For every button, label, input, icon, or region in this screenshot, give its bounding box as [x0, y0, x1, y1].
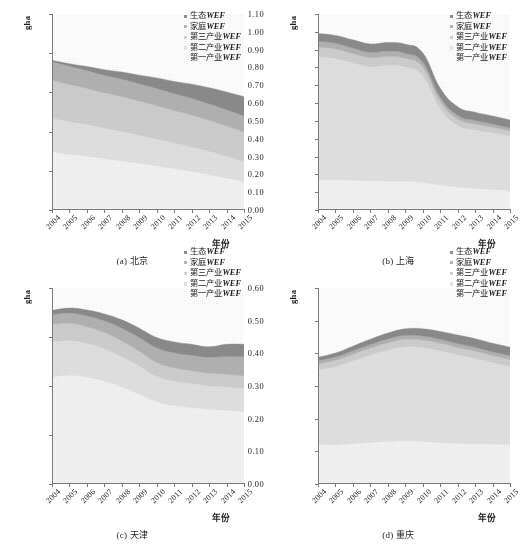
y-tick-label: 0.60 — [248, 284, 264, 293]
x-tick-label: 2012 — [450, 213, 468, 231]
legend-swatch-tertiary — [184, 272, 187, 275]
legend-label: 第二产业WEF — [190, 43, 241, 54]
y-tick-label: 0.00 — [248, 206, 264, 215]
x-tick-label: 2013 — [201, 213, 219, 231]
y-tick-mark — [49, 171, 52, 172]
x-tick-label: 2008 — [380, 213, 398, 231]
x-tick-label: 2011 — [432, 213, 450, 231]
y-tick-mark — [315, 139, 318, 140]
x-tick-mark — [423, 210, 424, 213]
x-tick-mark — [318, 210, 319, 213]
legend-label: 第一产业WEF — [456, 289, 507, 300]
legend-label: 第一产业WEF — [456, 53, 507, 64]
x-tick-label: 2009 — [131, 213, 149, 231]
legend-label: 第二产业WEF — [456, 43, 507, 54]
x-tick-mark — [318, 484, 319, 487]
legend-swatch-household — [450, 261, 453, 264]
x-tick-mark — [209, 210, 210, 213]
y-axis-line-d — [318, 288, 319, 484]
y-axis-line-a — [52, 14, 53, 210]
plot-area-c — [52, 288, 244, 484]
y-tick-label: 0.80 — [248, 63, 264, 72]
y-tick-label: 0.00 — [248, 480, 264, 489]
x-tick-label: 2011 — [166, 213, 184, 231]
x-tick-mark — [209, 484, 210, 487]
y-tick-mark — [315, 32, 318, 33]
legend-item: 家庭WEF — [450, 22, 507, 33]
x-tick-mark — [423, 484, 424, 487]
chart-panel-b: gha 0.000.100.200.300.400.500.600.700.80… — [266, 0, 531, 273]
x-tick-mark — [405, 484, 406, 487]
x-tick-label: 2011 — [432, 487, 450, 505]
legend-label: 家庭WEF — [190, 258, 225, 269]
x-axis-line-d — [318, 483, 511, 484]
x-tick-mark — [87, 210, 88, 213]
x-tick-label: 2013 — [467, 213, 485, 231]
x-tick-mark — [139, 484, 140, 487]
y-tick-mark — [315, 419, 318, 420]
y-tick-mark — [315, 121, 318, 122]
x-axis-title-c: 年份 — [212, 511, 230, 523]
x-tick-label: 2007 — [362, 487, 380, 505]
legend-b: 生态WEF家庭WEF第三产业WEF第二产业WEF第一产业WEF — [450, 11, 507, 64]
y-tick-mark — [315, 103, 318, 104]
y-tick-label: 1.10 — [248, 10, 264, 19]
legend-swatch-primary — [184, 293, 187, 296]
legend-item: 第一产业WEF — [184, 289, 241, 300]
x-tick-label: 2012 — [184, 487, 202, 505]
legend-item: 第三产业WEF — [450, 268, 507, 279]
x-tick-mark — [370, 210, 371, 213]
y-tick-mark — [315, 451, 318, 452]
y-tick-label: 0.20 — [248, 414, 264, 423]
x-tick-label: 2008 — [114, 213, 132, 231]
x-tick-mark — [192, 210, 193, 213]
x-tick-mark — [104, 484, 105, 487]
x-tick-label: 2010 — [415, 213, 433, 231]
x-tick-mark — [122, 484, 123, 487]
x-tick-label: 2010 — [415, 487, 433, 505]
chart-panel-c: gha 0.000.100.200.300.40 200420052006200… — [0, 274, 265, 547]
x-tick-label: 2010 — [149, 487, 167, 505]
x-tick-mark — [69, 484, 70, 487]
x-tick-label: 2009 — [131, 487, 149, 505]
x-tick-label: 2012 — [450, 487, 468, 505]
x-tick-mark — [510, 484, 511, 487]
x-tick-label: 2007 — [362, 213, 380, 231]
y-axis-title-d: gha — [288, 290, 298, 304]
x-tick-label: 2015 — [502, 213, 520, 231]
x-tick-mark — [227, 484, 228, 487]
x-tick-mark — [458, 484, 459, 487]
legend-swatch-secondary — [450, 46, 453, 49]
y-tick-mark — [49, 288, 52, 289]
y-tick-mark — [49, 132, 52, 133]
x-tick-mark — [388, 210, 389, 213]
y-tick-label: 1.00 — [248, 27, 264, 36]
legend-swatch-eco — [450, 15, 453, 18]
legend-item: 第二产业WEF — [450, 279, 507, 290]
plot-area-d — [318, 288, 510, 484]
x-tick-label: 2014 — [219, 487, 237, 505]
y-tick-mark — [315, 353, 318, 354]
x-tick-label: 2004 — [310, 213, 328, 231]
chart-panel-a: gha 0.000.100.200.300.400.50 20042005200… — [0, 0, 265, 273]
legend-swatch-tertiary — [450, 272, 453, 275]
x-tick-label: 2014 — [485, 487, 503, 505]
legend-swatch-secondary — [184, 46, 187, 49]
x-tick-mark — [244, 484, 245, 487]
x-tick-label: 2009 — [397, 487, 415, 505]
chart-panel-d: gha 0.000.100.200.300.400.500.60 2004200… — [266, 274, 531, 547]
legend-item: 家庭WEF — [184, 258, 241, 269]
legend-swatch-household — [184, 261, 187, 264]
x-tick-mark — [157, 210, 158, 213]
x-tick-label: 2005 — [62, 213, 80, 231]
x-tick-mark — [353, 210, 354, 213]
x-tick-mark — [244, 210, 245, 213]
legend-item: 生态WEF — [184, 247, 241, 258]
legend-item: 第二产业WEF — [184, 279, 241, 290]
y-tick-mark — [315, 174, 318, 175]
x-tick-label: 2004 — [44, 213, 62, 231]
legend-label: 生态WEF — [456, 11, 491, 22]
y-tick-mark — [49, 386, 52, 387]
legend-item: 第二产业WEF — [450, 43, 507, 54]
legend-swatch-secondary — [450, 282, 453, 285]
